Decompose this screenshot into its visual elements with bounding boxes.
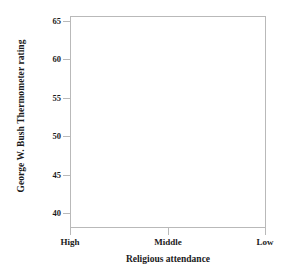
y-tick-label: 40 bbox=[36, 209, 61, 218]
y-tick-mark bbox=[63, 136, 70, 137]
x-tick-mark bbox=[168, 228, 169, 235]
y-tick-label: 55 bbox=[36, 94, 61, 103]
y-tick-label: 60 bbox=[36, 55, 61, 64]
y-tick-mark bbox=[63, 59, 70, 60]
x-tick-label-middle: Middle bbox=[138, 238, 198, 247]
y-tick-label: 50 bbox=[36, 132, 61, 141]
plot-area bbox=[70, 16, 266, 228]
y-tick-mark bbox=[63, 213, 70, 214]
y-axis-title: George W. Bush Thermometer rating bbox=[14, 0, 28, 232]
x-tick-label-high: High bbox=[40, 238, 100, 247]
y-tick-label: 65 bbox=[36, 17, 61, 26]
chart-figure: George W. Bush Thermometer rating 65 60 … bbox=[0, 0, 282, 275]
x-tick-label-low: Low bbox=[235, 238, 282, 247]
x-axis-title: Religious attendance bbox=[70, 254, 266, 264]
y-tick-label: 45 bbox=[36, 171, 61, 180]
x-tick-mark bbox=[70, 228, 71, 235]
x-tick-mark bbox=[265, 228, 266, 235]
y-tick-mark bbox=[63, 98, 70, 99]
y-tick-mark bbox=[63, 175, 70, 176]
y-tick-mark bbox=[63, 21, 70, 22]
